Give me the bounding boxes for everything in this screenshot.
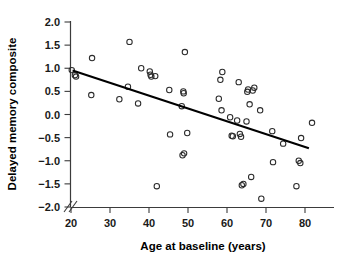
x-tick-label: 80 xyxy=(299,217,311,229)
y-tick-label: 1.5 xyxy=(45,39,60,51)
data-point xyxy=(298,135,303,140)
data-point xyxy=(117,97,122,102)
regression-line xyxy=(73,71,309,149)
data-point xyxy=(259,196,264,201)
data-point xyxy=(248,174,253,179)
y-tick-label: −0.5 xyxy=(38,132,60,144)
axes-group xyxy=(64,21,334,212)
x-tick-label: 20 xyxy=(65,217,77,229)
scatter-plot-figure: −2.0−1.5−1.0−0.50.00.51.01.52.0 20304050… xyxy=(0,0,342,265)
y-axis-ticks: −2.0−1.5−1.0−0.50.00.51.01.52.0 xyxy=(38,16,70,213)
y-axis-title: Delayed memory composite xyxy=(6,38,18,191)
y-tick-label: 1.0 xyxy=(45,62,60,74)
x-tick-label: 70 xyxy=(260,217,272,229)
data-point xyxy=(127,39,132,44)
y-tick-label: 0.5 xyxy=(45,85,60,97)
data-point xyxy=(257,108,262,113)
data-point xyxy=(227,115,232,120)
data-point xyxy=(89,92,94,97)
data-point xyxy=(167,132,172,137)
data-point xyxy=(182,49,187,54)
data-point xyxy=(220,69,225,74)
y-tick-label: 0.0 xyxy=(45,109,60,121)
data-points-group xyxy=(69,39,315,201)
data-point xyxy=(167,87,172,92)
data-point xyxy=(234,118,239,123)
data-point xyxy=(239,183,244,188)
data-point xyxy=(216,96,221,101)
data-point xyxy=(280,141,285,146)
data-point xyxy=(135,101,140,106)
data-point xyxy=(89,55,94,60)
data-point xyxy=(185,130,190,135)
data-point xyxy=(73,74,78,79)
data-point xyxy=(294,183,299,188)
x-tick-label: 50 xyxy=(182,217,194,229)
x-tick-label: 40 xyxy=(143,217,155,229)
data-point xyxy=(309,120,314,125)
data-point xyxy=(154,183,159,188)
y-tick-label: −1.5 xyxy=(38,178,60,190)
data-point xyxy=(236,79,241,84)
data-point xyxy=(241,181,246,186)
x-tick-label: 30 xyxy=(104,217,116,229)
y-tick-label: −2.0 xyxy=(38,201,60,213)
data-point xyxy=(270,128,275,133)
data-point xyxy=(270,159,275,164)
data-point xyxy=(218,77,223,82)
y-tick-label: 2.0 xyxy=(45,16,60,28)
data-point xyxy=(219,108,224,113)
plot-canvas: −2.0−1.5−1.0−0.50.00.51.01.52.0 20304050… xyxy=(0,0,342,265)
data-point xyxy=(247,102,252,107)
x-tick-label: 60 xyxy=(221,217,233,229)
data-point xyxy=(244,119,249,124)
y-tick-label: −1.0 xyxy=(38,155,60,167)
x-axis-ticks: 20304050607080 xyxy=(65,208,311,230)
data-point xyxy=(139,66,144,71)
x-axis-title: Age at baseline (years) xyxy=(140,240,265,252)
